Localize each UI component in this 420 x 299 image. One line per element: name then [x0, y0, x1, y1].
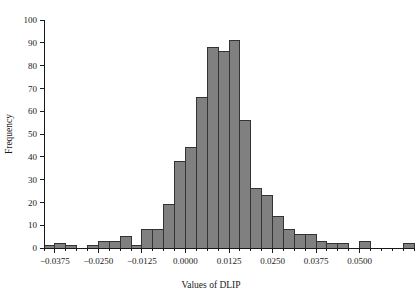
x-tick-label: −0.0375: [40, 256, 70, 266]
histogram-bar: [305, 234, 316, 248]
x-tick-label: 0.0125: [217, 256, 242, 266]
histogram-bar: [164, 205, 175, 248]
y-tick-label: 10: [28, 220, 38, 230]
x-tick-label: 0.0500: [347, 256, 372, 266]
x-tick-label: 0.0000: [173, 256, 198, 266]
histogram-bar: [316, 241, 327, 248]
histogram-bar: [207, 47, 218, 248]
y-tick-label: 20: [28, 198, 38, 208]
histogram-bar: [98, 241, 109, 248]
histogram-bar: [240, 120, 251, 248]
y-tick-label: 80: [28, 61, 38, 71]
y-tick-label: 50: [28, 129, 38, 139]
histogram-bar: [273, 216, 284, 248]
histogram-bar: [109, 241, 120, 248]
y-tick-label: 30: [28, 175, 38, 185]
x-axis-title: Values of DLIP: [181, 280, 240, 290]
histogram-bar: [120, 237, 131, 248]
histogram-bar: [327, 243, 338, 248]
histogram-bar: [196, 98, 207, 248]
histogram-bar: [283, 230, 294, 248]
histogram-bar: [251, 189, 262, 248]
histogram-figure: 0102030405060708090100−0.0375−0.0250−0.0…: [0, 0, 420, 299]
histogram-bar: [185, 148, 196, 248]
histogram-bar: [262, 196, 273, 248]
x-tick-label: −0.0250: [83, 256, 113, 266]
histogram-bar: [294, 234, 305, 248]
histogram-plot: 0102030405060708090100−0.0375−0.0250−0.0…: [0, 0, 420, 299]
histogram-bar: [153, 230, 164, 248]
histogram-bar: [55, 243, 66, 248]
x-tick-label: 0.0375: [304, 256, 329, 266]
y-tick-label: 0: [33, 243, 38, 253]
x-tick-label: 0.0250: [260, 256, 285, 266]
x-tick-label: −0.0125: [127, 256, 157, 266]
histogram-bar: [218, 52, 229, 248]
histogram-bar: [175, 161, 186, 248]
histogram-bar: [142, 230, 153, 248]
y-tick-label: 70: [28, 84, 38, 94]
histogram-bar: [403, 243, 414, 248]
y-tick-label: 90: [28, 38, 38, 48]
y-tick-label: 40: [28, 152, 38, 162]
histogram-bar: [229, 41, 240, 248]
y-axis-title: Frequency: [4, 114, 14, 154]
y-tick-label: 60: [28, 106, 38, 116]
y-tick-label: 100: [24, 15, 38, 25]
histogram-bar: [338, 243, 349, 248]
histogram-bar: [360, 241, 371, 248]
